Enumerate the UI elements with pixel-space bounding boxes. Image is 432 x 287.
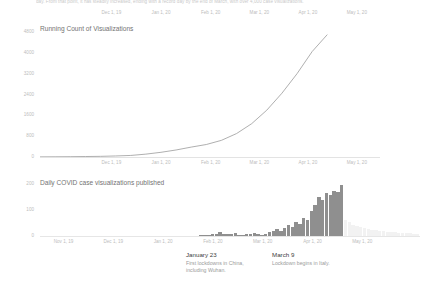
annotation-text: First lockdowns in China, including Wuha… — [186, 260, 264, 274]
daily-x-tick: Nov 1, 19 — [54, 239, 74, 245]
daily-x-tick: Jan 1, 20 — [154, 239, 173, 245]
daily-y-tick: 100 — [12, 207, 34, 213]
running-count-x-tick: Mar 1, 20 — [250, 160, 269, 166]
annotation: March 9Lockdown begins in Italy. — [272, 250, 350, 267]
running-count-x-tick: May 1, 20 — [347, 160, 367, 166]
running-count-plot-area — [40, 32, 380, 157]
daily-visualizations-baseline — [40, 236, 420, 237]
top-axis-tick: Feb 1, 20 — [201, 10, 220, 16]
daily-y-tick: 200 — [12, 181, 34, 187]
daily-x-tick: Dec 1, 19 — [103, 239, 123, 245]
running-count-x-tick: Apr 1, 20 — [299, 160, 318, 166]
annotation-date: March 9 — [272, 250, 350, 259]
top-axis-tick: Apr 1, 20 — [299, 10, 318, 16]
running-count-x-tick: Dec 1, 19 — [102, 160, 122, 166]
clipped-paragraph: day. From that point, it has steadily in… — [36, 0, 428, 5]
top-axis-tick: Mar 1, 20 — [250, 10, 269, 16]
daily-y-tick: 0 — [12, 233, 34, 239]
running-count-x-tick: Feb 1, 20 — [201, 160, 220, 166]
running-count-line — [40, 32, 380, 157]
annotation: January 23First lockdowns in China, incl… — [186, 250, 264, 274]
annotation-date: January 23 — [186, 250, 264, 259]
running-count-chart: Running Count of Visualizations 48004000… — [0, 22, 432, 172]
top-partial-axis: Dec 1, 19Jan 1, 20Feb 1, 20Mar 1, 20Apr … — [0, 10, 432, 20]
running-count-y-tick: 1600 — [12, 112, 34, 118]
top-axis-tick: May 1, 20 — [347, 10, 367, 16]
top-axis-tick: Jan 1, 20 — [152, 10, 171, 16]
daily-visualizations-chart: Daily COVID case visualizations publishe… — [0, 178, 432, 287]
running-count-y-tick: 3200 — [12, 71, 34, 77]
running-count-y-tick: 4000 — [12, 50, 34, 56]
running-count-y-tick: 2400 — [12, 92, 34, 98]
daily-x-tick: Mar 1, 20 — [253, 239, 272, 245]
annotation-text: Lockdown begins in Italy. — [272, 260, 350, 267]
daily-visualizations-plot-area — [40, 184, 420, 236]
daily-x-tick: May 1, 20 — [352, 239, 372, 245]
running-count-y-tick: 800 — [12, 133, 34, 139]
running-count-y-tick: 4800 — [12, 29, 34, 35]
page-root: day. From that point, it has steadily in… — [0, 0, 432, 287]
running-count-baseline — [40, 157, 380, 158]
running-count-x-tick: Jan 1, 20 — [152, 160, 171, 166]
daily-x-tick: Feb 1, 20 — [203, 239, 222, 245]
running-count-y-tick: 0 — [12, 154, 34, 160]
daily-x-tick: Apr 1, 20 — [303, 239, 322, 245]
top-axis-tick: Dec 1, 19 — [102, 10, 122, 16]
